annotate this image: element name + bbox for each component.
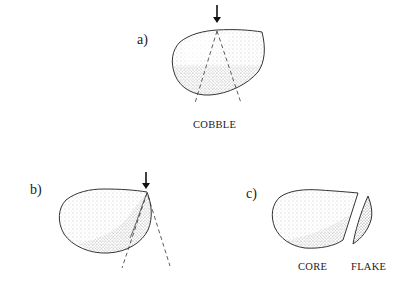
arrow-down-icon xyxy=(142,172,150,189)
cobble-caption: COBBLE xyxy=(193,119,236,130)
panel-b-cobble xyxy=(59,172,170,268)
flake-shape xyxy=(353,196,372,244)
panel-a-cobble xyxy=(172,5,264,103)
panel-c-label: c) xyxy=(246,186,257,202)
lithic-reduction-diagram xyxy=(0,0,407,294)
panel-c-core-flake xyxy=(272,190,372,249)
panel-a-label: a) xyxy=(137,32,148,48)
panel-b-label: b) xyxy=(30,182,42,198)
flake-caption: FLAKE xyxy=(351,261,386,272)
arrow-down-icon xyxy=(213,5,221,23)
core-caption: CORE xyxy=(298,261,327,272)
